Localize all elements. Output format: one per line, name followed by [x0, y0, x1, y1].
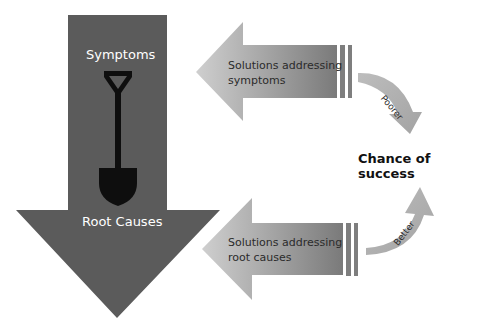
lower-arrow-stripe-2	[354, 223, 358, 276]
lower-arrow-line2: root causes	[228, 250, 342, 265]
upper-arrow-stripe-2	[348, 45, 352, 98]
lower-arrow-stripe-1	[346, 223, 351, 276]
lower-arrow-line1: Solutions addressing	[228, 235, 342, 250]
upper-arrow-label: Solutions addressing symptoms	[228, 58, 342, 88]
upper-arrow-line2: symptoms	[228, 73, 342, 88]
root-causes-label: Root Causes	[82, 214, 162, 229]
symptoms-label: Symptoms	[86, 47, 155, 62]
upper-arrow-line1: Solutions addressing	[228, 58, 342, 73]
chance-of-success-title: Chance of success	[358, 151, 482, 181]
lower-arrow-label: Solutions addressing root causes	[228, 235, 342, 265]
